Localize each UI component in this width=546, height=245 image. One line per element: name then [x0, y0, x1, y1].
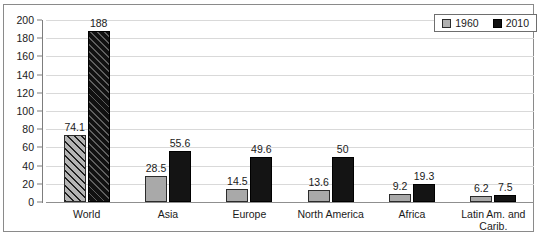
- gridline: [46, 202, 534, 203]
- gridline: [46, 75, 534, 76]
- y-axis-tick-label: 60: [22, 141, 34, 153]
- gridline: [46, 147, 534, 148]
- bar-1960: [226, 189, 248, 202]
- bar-value-label-1960: 13.6: [294, 176, 344, 188]
- bar-1960: [308, 190, 330, 202]
- y-axis-tick-label: 40: [22, 160, 34, 172]
- bar-group: 74.1188: [64, 20, 110, 202]
- bar-value-label-2010: 49.6: [236, 143, 286, 155]
- bar-value-label-1960: 14.5: [212, 175, 262, 187]
- y-axis-tick-label: 80: [22, 123, 34, 135]
- bar-1960: [145, 176, 167, 202]
- bar-value-label-2010: 19.3: [399, 170, 449, 182]
- y-axis-tick-label: 20: [22, 178, 34, 190]
- bar-value-label-2010: 50: [318, 143, 368, 155]
- bar-group: 14.549.6: [226, 20, 272, 202]
- bar-group: 28.555.6: [145, 20, 191, 202]
- y-axis-tick-label: 180: [16, 32, 34, 44]
- gridline: [46, 166, 534, 167]
- y-axis-tick-label: 140: [16, 69, 34, 81]
- y-axis-tick-label: 200: [16, 14, 34, 26]
- legend-swatch-1960: [442, 19, 451, 28]
- gridline: [46, 38, 534, 39]
- bar-value-label-2010: 7.5: [480, 181, 530, 193]
- bar-chart: 200180160140120100806040200 74.118828.55…: [0, 0, 546, 245]
- bar-group: 6.27.5: [470, 20, 516, 202]
- bar-value-label-1960: 74.1: [50, 121, 100, 133]
- y-axis-tick-label: 160: [16, 50, 34, 62]
- y-axis-tick-label: 120: [16, 87, 34, 99]
- legend-label-1960: 1960: [455, 17, 478, 29]
- bar-1960: [64, 135, 86, 202]
- gridline: [46, 56, 534, 57]
- x-axis-category-line: Latin Am. and: [433, 208, 546, 220]
- legend-label-2010: 2010: [506, 17, 529, 29]
- plot-area: 74.118828.555.614.549.613.6509.219.36.27…: [46, 20, 534, 202]
- bar-value-label-2010: 188: [74, 17, 124, 29]
- bar-2010: [494, 195, 516, 202]
- y-axis-line: [42, 20, 43, 203]
- legend-swatch-2010: [493, 19, 502, 28]
- bar-group: 13.650: [308, 20, 354, 202]
- bar-2010: [169, 151, 191, 202]
- x-axis-category-label: Latin Am. andCarib.: [433, 208, 546, 232]
- bar-1960: [389, 194, 411, 202]
- gridline: [46, 111, 534, 112]
- y-axis-tick-label: 100: [16, 105, 34, 117]
- gridline: [46, 129, 534, 130]
- bar-1960: [470, 196, 492, 202]
- bar-value-label-1960: 28.5: [131, 162, 181, 174]
- x-axis-category-line: Carib.: [433, 220, 546, 232]
- gridline: [46, 93, 534, 94]
- legend-item-1960: 1960: [442, 17, 478, 29]
- chart-legend: 1960 2010: [434, 14, 537, 32]
- legend-item-2010: 2010: [493, 17, 529, 29]
- bar-group: 9.219.3: [389, 20, 435, 202]
- y-axis-tick-label: 0: [28, 196, 34, 208]
- bar-value-label-2010: 55.6: [155, 137, 205, 149]
- bar-2010: [88, 31, 110, 202]
